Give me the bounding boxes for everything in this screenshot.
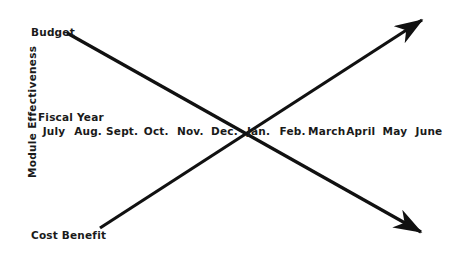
x-axis-tick-label: April — [346, 125, 375, 137]
x-axis-tick-label: June — [416, 125, 443, 137]
series-label-budget: Budget — [31, 26, 75, 38]
x-axis-tick-label: Sept. — [106, 125, 138, 137]
y-axis-label: Module Effectiveness — [26, 48, 38, 178]
x-axis-tick-label: Aug. — [74, 125, 102, 137]
fiscal-year-crossing-lines-chart: Module Effectiveness Budget Cost Benefit… — [0, 0, 455, 254]
cost-benefit-trend-line — [100, 20, 422, 228]
x-axis-tick-label: July — [43, 125, 66, 137]
x-axis-tick-label: Nov. — [177, 125, 204, 137]
x-axis-group-label: Fiscal Year — [38, 111, 104, 123]
x-axis-tick-label: March — [308, 125, 345, 137]
x-axis-tick-label: Jan. — [247, 125, 270, 137]
x-axis-tick-label: Feb. — [280, 125, 306, 137]
x-axis-tick-label: Dec. — [211, 125, 238, 137]
x-axis-tick-label: May — [383, 125, 408, 137]
series-label-cost-benefit: Cost Benefit — [31, 229, 106, 241]
x-axis-tick-label: Oct. — [144, 125, 169, 137]
x-axis-month-ticks: JulyAug.Sept.Oct.Nov.Dec.Jan.Feb.MarchAp… — [36, 125, 447, 139]
